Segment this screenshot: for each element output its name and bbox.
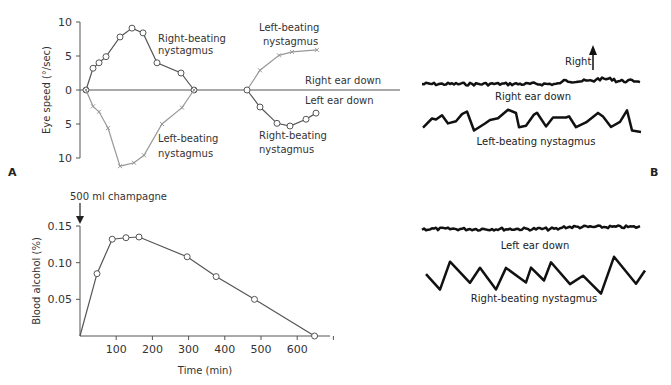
data-point — [251, 296, 257, 302]
x-axis-label: Time (min) — [177, 365, 232, 376]
x-tick-label: 300 — [178, 343, 199, 356]
trace-label-left-ear-down: Left ear down — [501, 240, 570, 251]
data-point — [274, 120, 280, 126]
arrow-down-icon — [76, 216, 84, 224]
data-point — [96, 60, 102, 66]
eye-speed-chart: 1050510 Eye speed (°/sec) Right-beating … — [41, 16, 400, 168]
arrow-up-icon — [589, 45, 597, 55]
y-tick-label: 0.15 — [48, 220, 73, 233]
trace-right-beating-nystagmus — [426, 257, 645, 294]
data-point — [117, 34, 123, 40]
eye-movement-traces: Right Right ear down Left-beating nystag… — [422, 45, 645, 304]
x-tick-label: 500 — [251, 343, 272, 356]
data-point — [213, 274, 219, 280]
annotation-left-ear-down: Left ear down — [305, 95, 374, 106]
y-tick-label: 0 — [65, 84, 72, 97]
data-point — [312, 333, 318, 339]
data-point — [180, 106, 184, 110]
annotation-right-beating-2b: nystagmus — [259, 144, 314, 155]
data-point — [178, 70, 184, 76]
blood-alcohol-chart: 0.150.100.05 100200300400500600 Blood al… — [31, 191, 333, 376]
data-point — [129, 25, 135, 31]
y-tick-label: 10 — [58, 152, 72, 165]
annotation-right-ear-down: Right ear down — [305, 75, 381, 86]
x-tick-label: 100 — [106, 343, 127, 356]
champagne-annotation: 500 ml champagne — [70, 191, 167, 202]
panel-label-b: B — [650, 166, 658, 179]
trace-label-right-ear-down: Right ear down — [495, 91, 571, 102]
y-tick-label: 0.10 — [48, 257, 73, 270]
annotation-left-beating-1: Left-beating — [158, 133, 218, 144]
trace-label-right-beating: Right-beating nystagmus — [471, 293, 597, 304]
annotation-right-beating-1: Right-beating — [158, 33, 226, 44]
trace-left-ear-down — [422, 226, 640, 231]
y-axis-label: Eye speed (°/sec) — [41, 46, 52, 134]
annotation-left-beating-2b: nystagmus — [263, 36, 318, 47]
data-point — [97, 110, 101, 114]
data-point — [136, 234, 142, 240]
figure: A B 1050510 Eye speed (°/sec) Right-beat… — [0, 0, 671, 385]
y-tick-label: 5 — [65, 50, 72, 63]
data-point — [103, 54, 109, 60]
data-point — [244, 87, 250, 93]
trace-right-ear-down — [422, 78, 640, 86]
data-point — [142, 153, 146, 157]
x-tick-label: 200 — [142, 343, 163, 356]
data-point — [109, 236, 115, 242]
annotation-left-beating-1b: nystagmus — [158, 148, 213, 159]
y-tick-label: 0.05 — [48, 293, 73, 306]
panel-label-a: A — [8, 166, 17, 179]
y-tick-label: 10 — [58, 16, 72, 29]
data-point — [160, 122, 164, 126]
data-point — [140, 30, 146, 36]
right-direction-label: Right — [565, 56, 591, 67]
annotation-left-beating-2: Left-beating — [259, 22, 319, 33]
data-point — [154, 60, 160, 66]
annotation-right-beating-1b: nystagmus — [158, 45, 213, 56]
trace-label-left-beating: Left-beating nystagmus — [477, 136, 596, 147]
annotation-right-beating-2: Right-beating — [259, 130, 327, 141]
series-line — [80, 237, 315, 336]
y-axis-label: Blood alcohol (%) — [31, 237, 42, 325]
data-point — [258, 68, 262, 72]
x-tick-label: 600 — [287, 343, 308, 356]
y-tick-label: 5 — [65, 118, 72, 131]
data-point — [313, 110, 319, 116]
x-tick-label: 400 — [214, 343, 235, 356]
data-point — [303, 116, 309, 122]
data-point — [94, 271, 100, 277]
data-point — [184, 254, 190, 260]
data-point — [90, 65, 96, 71]
data-point — [257, 104, 263, 110]
trace-left-beating-nystagmus — [423, 110, 641, 132]
data-point — [123, 235, 129, 241]
data-point — [287, 123, 293, 129]
